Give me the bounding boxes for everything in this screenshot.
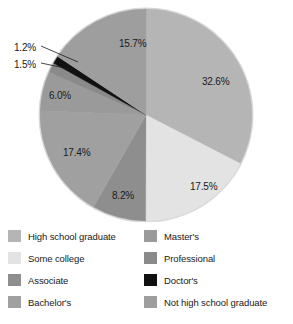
legend-item-label: Master's [164, 231, 199, 242]
chart-legend: High school graduateSome collegeAssociat… [0, 222, 293, 324]
legend-color-swatch [8, 296, 21, 308]
legend-column-right: Master'sProfessionalDoctor'sNot high sch… [144, 225, 267, 313]
slice-percentage-label: 15.7% [119, 38, 146, 49]
slice-percentage-label: 17.4% [63, 147, 90, 158]
legend-item[interactable]: Bachelor's [8, 291, 116, 313]
legend-item[interactable]: Some college [8, 247, 116, 269]
legend-item[interactable]: High school graduate [8, 225, 116, 247]
legend-color-swatch [8, 252, 21, 264]
legend-item[interactable]: Associate [8, 269, 116, 291]
legend-color-swatch [8, 274, 21, 286]
legend-item-label: Some college [28, 253, 84, 264]
slice-percentage-label: 32.6% [202, 76, 229, 87]
legend-item[interactable]: Doctor's [144, 269, 267, 291]
legend-item-label: Doctor's [164, 275, 198, 286]
legend-item-label: High school graduate [28, 231, 116, 242]
pie-chart-svg [0, 0, 293, 222]
slice-percentage-label: 1.5% [14, 59, 36, 70]
legend-color-swatch [144, 230, 157, 242]
legend-item-label: Not high school graduate [164, 297, 267, 308]
slice-percentage-label: 17.5% [190, 181, 217, 192]
legend-color-swatch [8, 230, 21, 242]
legend-color-swatch [144, 296, 157, 308]
legend-color-swatch [144, 252, 157, 264]
legend-color-swatch [144, 274, 157, 286]
slice-percentage-label: 1.2% [14, 42, 36, 53]
slice-percentage-label: 6.0% [49, 90, 71, 101]
legend-item[interactable]: Not high school graduate [144, 291, 267, 313]
legend-item-label: Professional [164, 253, 215, 264]
legend-item[interactable]: Master's [144, 225, 267, 247]
legend-item-label: Bachelor's [28, 297, 71, 308]
legend-column-left: High school graduateSome collegeAssociat… [8, 225, 116, 313]
legend-item[interactable]: Professional [144, 247, 267, 269]
pie-chart-area: 32.6%17.5%8.2%17.4%6.0%1.5%1.2%15.7% [0, 0, 293, 222]
slice-percentage-label: 8.2% [112, 190, 134, 201]
legend-item-label: Associate [28, 275, 68, 286]
